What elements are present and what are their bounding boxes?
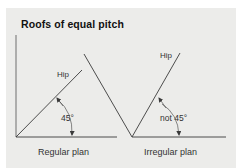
center-ridge-line [84, 54, 132, 137]
irregular-plan-caption: Irregular plan [144, 147, 197, 157]
irregular-hip-label: Hip [160, 51, 173, 60]
regular-angle-label: 45° [61, 113, 74, 123]
irregular-angle-arrow-top [159, 98, 166, 108]
irregular-angle-label: not 45° [160, 113, 187, 123]
irregular-plan-diagram: Hip not 45° Irregular plan [132, 51, 226, 157]
regular-plan-caption: Regular plan [38, 147, 89, 157]
roof-pitch-diagram: Hip 45° Regular plan Hip not 45° Irregul… [0, 0, 244, 168]
regular-angle-arrow-top [57, 98, 63, 106]
regular-plan-diagram: Hip 45° Regular plan [16, 35, 132, 157]
irregular-hip-line [132, 53, 180, 137]
regular-hip-label: Hip [57, 70, 70, 79]
